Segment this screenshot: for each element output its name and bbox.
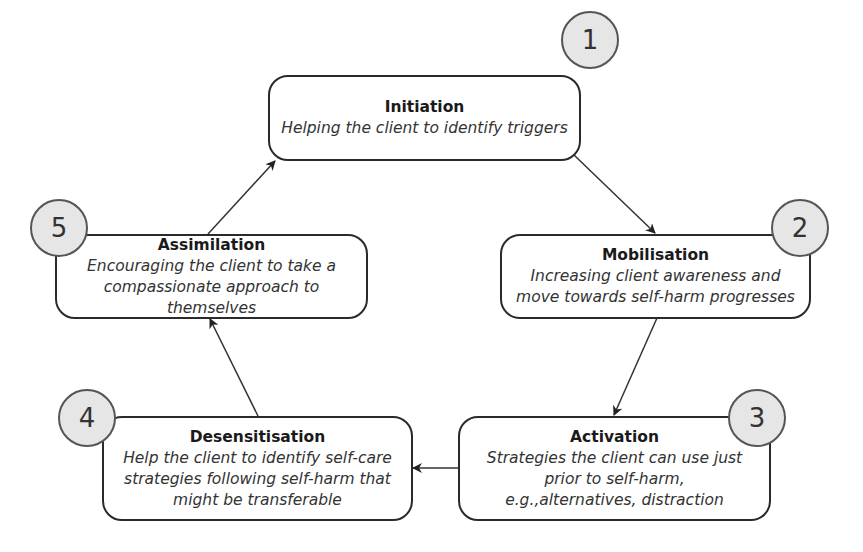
stage-title: Activation: [570, 427, 659, 448]
stage-description: Helping the client to identify triggers: [281, 118, 567, 139]
arrow-4-to-5: [210, 319, 258, 416]
stage-number-badge: 2: [771, 199, 829, 257]
stage-activation-box: Activation Strategies the client can use…: [458, 416, 771, 521]
stage-number-badge: 5: [30, 199, 88, 257]
stage-number-badge: 4: [58, 389, 116, 447]
stage-assimilation-box: Assimilation Encouraging the client to t…: [55, 234, 368, 319]
stage-initiation-box: Initiation Helping the client to identif…: [268, 75, 581, 161]
stage-description: Help the client to identify self-care st…: [122, 448, 393, 511]
stage-desensitisation-box: Desensitisation Help the client to ident…: [102, 416, 413, 521]
stage-number-badge: 1: [561, 11, 619, 69]
stage-title: Initiation: [385, 97, 465, 118]
stage-description: Encouraging the client to take a compass…: [65, 256, 358, 319]
arrow-5-to-1: [208, 161, 275, 234]
stage-title: Assimilation: [158, 235, 265, 256]
stage-mobilisation-box: Mobilisation Increasing client awareness…: [500, 234, 811, 319]
stage-title: Mobilisation: [602, 245, 709, 266]
stage-description: Strategies the client can use just prior…: [482, 448, 747, 511]
arrow-1-to-2: [574, 155, 655, 233]
arrow-2-to-3: [614, 318, 657, 415]
stage-title: Desensitisation: [190, 427, 326, 448]
stage-number-badge: 3: [728, 389, 786, 447]
stage-description: Increasing client awareness and move tow…: [516, 266, 795, 308]
